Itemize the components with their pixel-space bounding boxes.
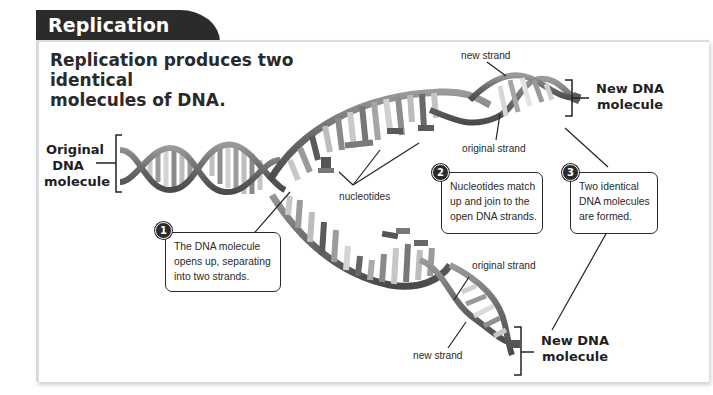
step-3-callout: Two identical DNA molecules are formed. [570,172,658,234]
label-line: molecule [535,349,615,365]
new-strand-top-label: new strand [461,49,511,61]
step-2-badge: 2 [432,164,449,181]
new-dna-bottom-label: New DNA molecule [535,333,615,365]
step-1-line: opens up, separating [174,254,262,269]
original-dna-label: Original DNA molecule [44,142,106,190]
original-strand-bottom-label: original strand [472,259,536,271]
step-3-line: are formed. [579,209,642,224]
step-2-line: up and join to the [450,194,526,209]
step-2-line: open DNA strands. [450,209,526,224]
label-line: New DNA [535,333,615,349]
step-3-line: Two identical [579,179,642,194]
step-3-line: DNA molecules [579,194,642,209]
label-line: molecule [44,174,106,190]
original-dna-helix [120,144,285,194]
step-2-line: Nucleotides match [450,179,526,194]
label-line: New DNA [590,81,670,97]
new-strand-bottom-label: new strand [413,349,463,361]
upper-strand-arm [270,75,581,180]
label-line: DNA [44,158,106,174]
original-strand-top-label: original strand [462,142,526,154]
step-2-callout: Nucleotides match up and join to the ope… [441,172,543,234]
step-3-badge: 3 [562,164,579,181]
step-1-badge: 1 [155,222,172,239]
label-line: molecule [590,97,670,113]
nucleotides-label: nucleotides [339,190,390,202]
step-1-line: into two strands. [174,269,262,284]
label-line: Original [44,142,106,158]
step-1-callout: The DNA molecule opens up, separating in… [165,232,281,292]
new-dna-top-label: New DNA molecule [590,81,670,113]
step-1-line: The DNA molecule [174,239,262,254]
